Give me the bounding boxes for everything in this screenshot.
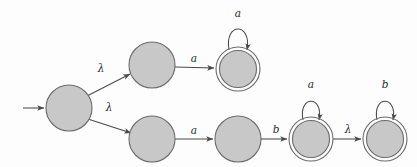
- lower-accept-state-1[interactable]: [293, 121, 330, 158]
- upper-accept-state[interactable]: [220, 51, 257, 88]
- edge-q0-q3-lambda: [88, 119, 131, 133]
- edge-label-q0-q1: λ: [97, 62, 105, 74]
- self-loop-label-q5: a: [308, 78, 314, 90]
- edge-label-q4-q5: b: [273, 123, 280, 135]
- edge-label-q0-q3: λ: [105, 101, 113, 113]
- edge-label-q3-q4: a: [191, 124, 197, 136]
- upper-state-1[interactable]: [129, 42, 175, 88]
- self-loop-label-q6: b: [382, 78, 389, 90]
- edge-label-q5-q6: λ: [344, 123, 352, 135]
- self-loop-label-q2: a: [235, 7, 241, 19]
- lower-state-1[interactable]: [129, 116, 175, 162]
- diagram-canvas: λ λ a a a b a λ b: [0, 0, 417, 167]
- nfa-state-diagram: λ λ a a a b a λ b: [0, 0, 417, 167]
- edge-q0-q1-lambda: [87, 74, 130, 96]
- lower-state-2[interactable]: [215, 116, 261, 162]
- lower-accept-state-2[interactable]: [367, 121, 404, 158]
- edge-label-q1-q2: a: [191, 52, 197, 64]
- edge-q1-q2-a: [175, 67, 214, 68]
- start-state[interactable]: [46, 85, 92, 131]
